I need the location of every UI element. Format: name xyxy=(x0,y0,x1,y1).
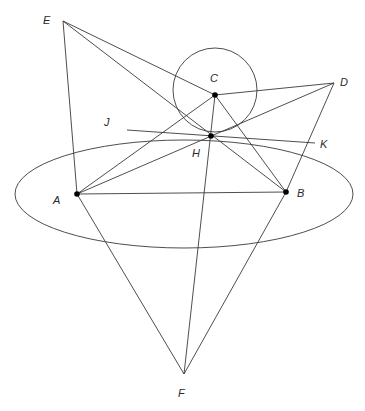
segments xyxy=(63,21,334,374)
segment-af xyxy=(77,194,184,374)
label-a: A xyxy=(52,194,60,206)
geometry-figure: E C D J K H A B F xyxy=(0,0,365,411)
segment-bf xyxy=(184,192,286,374)
segment-ac xyxy=(77,95,215,194)
label-h: H xyxy=(192,147,200,159)
point-c xyxy=(212,92,218,98)
point-b xyxy=(283,189,289,195)
label-j: J xyxy=(103,116,110,128)
segment-ab xyxy=(77,192,286,194)
label-k: K xyxy=(320,138,328,150)
segment-cb xyxy=(215,95,286,192)
point-a xyxy=(74,191,80,197)
label-c: C xyxy=(210,72,218,84)
circle-around-c xyxy=(173,48,257,132)
labels: E C D J K H A B F xyxy=(43,14,348,399)
label-b: B xyxy=(297,187,304,199)
figure-canvas: E C D J K H A B F xyxy=(0,0,365,411)
segment-ea xyxy=(63,21,77,194)
label-f: F xyxy=(178,387,186,399)
label-d: D xyxy=(340,76,348,88)
segment-ec xyxy=(63,21,215,95)
point-h xyxy=(208,133,214,139)
segment-eb xyxy=(63,21,286,192)
segment-cd xyxy=(215,83,334,95)
label-e: E xyxy=(43,14,51,26)
